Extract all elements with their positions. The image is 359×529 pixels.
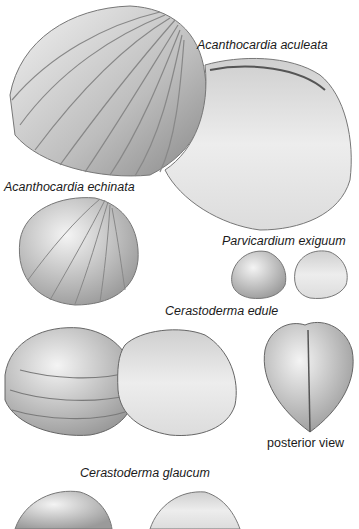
edule-posterior-view (264, 322, 353, 432)
label-parvicardium-exiguum: Parvicardium exiguum (222, 235, 346, 248)
edule-valves (5, 328, 236, 436)
label-acanthocardia-echinata: Acanthocardia echinata (4, 181, 135, 194)
echinata-valve (19, 198, 138, 305)
shell-illustration-plate: Acanthocardia aculeata Acanthocardia ech… (0, 0, 359, 529)
label-cerastoderma-glaucum: Cerastoderma glaucum (80, 467, 210, 480)
label-acanthocardia-aculeata: Acanthocardia aculeata (197, 39, 328, 52)
aculeata-outer-valve (10, 6, 206, 176)
label-cerastoderma-edule: Cerastoderma edule (165, 305, 278, 318)
glaucum-valves (15, 491, 240, 529)
exiguum-valves (232, 251, 348, 299)
label-posterior-view: posterior view (267, 437, 344, 450)
